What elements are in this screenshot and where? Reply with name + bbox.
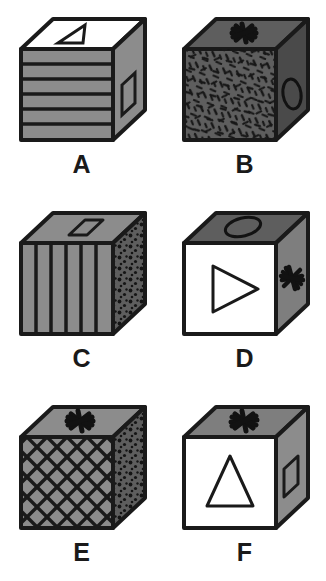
cube-f-drawing [170, 394, 320, 544]
cube-a-drawing [7, 6, 157, 156]
cube-b-top-asterisk-icon [232, 24, 256, 42]
cube-b-drawing [170, 6, 320, 156]
cube-item-e[interactable]: E [0, 388, 163, 581]
cube-grid: A [0, 0, 326, 581]
cube-d-right-asterisk-icon [281, 267, 303, 289]
cube-d-label: D [235, 346, 253, 371]
cube-item-a[interactable]: A [0, 0, 163, 194]
cube-c-label: C [72, 346, 90, 371]
cube-b-front-dash-texture [182, 47, 278, 142]
cube-e-drawing [7, 394, 157, 544]
cube-c-drawing [7, 200, 157, 350]
cube-a-label: A [72, 152, 90, 177]
cube-f-top-asterisk-icon [231, 411, 257, 431]
cube-item-d[interactable]: D [163, 194, 326, 388]
cube-item-f[interactable]: F [163, 388, 326, 581]
cube-item-c[interactable]: C [0, 194, 163, 388]
cube-f-label: F [237, 540, 252, 565]
cube-e-label: E [73, 540, 90, 565]
cube-b-label: B [235, 152, 253, 177]
cube-d-drawing [170, 200, 320, 350]
cube-item-b[interactable]: B [163, 0, 326, 194]
cube-e-top-asterisk-icon [67, 411, 93, 431]
figure-sheet: A [0, 0, 326, 581]
